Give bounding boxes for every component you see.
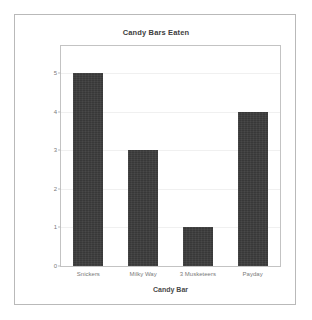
x-axis-tick-label: Snickers (77, 271, 100, 277)
y-axis-tick-label: 4 (54, 109, 57, 115)
y-axis-tick-mark (58, 266, 61, 267)
chart-card: Candy Bars Eaten 012345SnickersMilky Way… (14, 14, 296, 305)
plot-frame: 012345SnickersMilky Way3 MusketeersPayda… (60, 45, 281, 267)
bar (73, 73, 103, 266)
y-axis-tick-label: 5 (54, 70, 57, 76)
x-axis-title: Candy Bar (60, 286, 281, 293)
y-axis-tick-mark (58, 73, 61, 74)
y-axis-tick-label: 1 (54, 224, 57, 230)
y-axis-tick-label: 3 (54, 147, 57, 153)
y-axis-tick-mark (58, 150, 61, 151)
y-axis-tick-mark (58, 227, 61, 228)
bar (238, 112, 268, 266)
chart-title: Candy Bars Eaten (15, 28, 297, 37)
bar (183, 227, 213, 266)
x-axis-tick-label: Payday (243, 271, 263, 277)
bar (128, 150, 158, 266)
y-axis-tick-label: 0 (54, 263, 57, 269)
y-axis-tick-mark (58, 111, 61, 112)
y-axis-tick-mark (58, 188, 61, 189)
x-axis-tick-label: Milky Way (130, 271, 157, 277)
plot-area: 012345SnickersMilky Way3 MusketeersPayda… (61, 46, 280, 266)
y-axis-tick-label: 2 (54, 186, 57, 192)
x-axis-tick-label: 3 Musketeers (180, 271, 216, 277)
